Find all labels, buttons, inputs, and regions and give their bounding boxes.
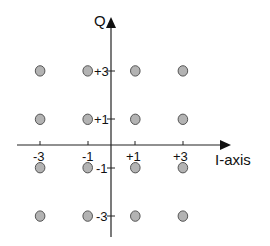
i-tick-label: -1 xyxy=(82,150,94,163)
i-tick-label: +3 xyxy=(173,150,188,163)
constellation-diagram xyxy=(0,0,270,246)
i-tick-label: +1 xyxy=(126,150,141,163)
q-tick-label: -3 xyxy=(96,210,108,223)
constellation-point xyxy=(178,114,188,124)
constellation-point xyxy=(35,163,45,173)
constellation-point xyxy=(83,163,93,173)
i-axis-label: I-axis xyxy=(215,152,251,167)
constellation-point xyxy=(131,211,141,221)
q-tick-label: -1 xyxy=(96,162,108,175)
constellation-point xyxy=(83,211,93,221)
q-tick-label: +3 xyxy=(94,65,109,78)
constellation-point xyxy=(178,66,188,76)
constellation-point xyxy=(178,163,188,173)
constellation-point xyxy=(35,114,45,124)
q-tick-label: +1 xyxy=(94,113,109,126)
i-tick-label: -3 xyxy=(33,150,45,163)
constellation-point xyxy=(131,114,141,124)
constellation-point xyxy=(131,163,141,173)
constellation-point xyxy=(35,211,45,221)
q-axis-label: Q xyxy=(94,13,106,28)
q-axis-arrow-icon xyxy=(106,17,116,28)
i-axis-arrow-icon xyxy=(220,140,231,150)
constellation-point xyxy=(83,66,93,76)
constellation-point xyxy=(178,211,188,221)
constellation-point xyxy=(131,66,141,76)
constellation-point xyxy=(35,66,45,76)
constellation-point xyxy=(83,114,93,124)
